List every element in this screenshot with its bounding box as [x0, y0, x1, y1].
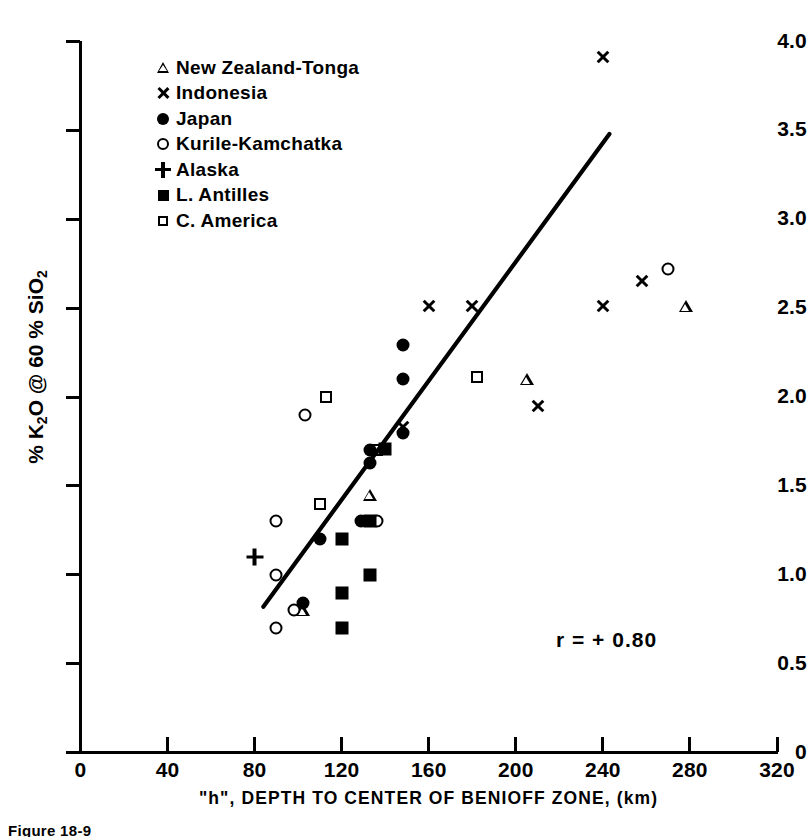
legend: New Zealand-TongaIndonesiaJapanKurile-Ka… — [150, 55, 359, 234]
data-point — [396, 339, 409, 352]
data-point — [313, 533, 326, 546]
open-square-marker-icon — [371, 444, 383, 456]
data-point — [371, 444, 383, 456]
filled-circle-marker-icon — [396, 373, 409, 386]
filled-square-marker-icon — [335, 622, 348, 635]
figure-caption: Figure 18-9 — [8, 822, 91, 837]
x-tick — [253, 737, 256, 752]
filled-circle-marker-icon — [157, 113, 169, 125]
y-tick — [66, 484, 80, 487]
legend-label: Alaska — [176, 159, 239, 181]
legend-label: Indonesia — [176, 82, 267, 104]
y-tick-label: 3.5 — [753, 117, 807, 141]
open-circle-marker-icon — [270, 622, 283, 635]
x-tick — [340, 737, 343, 752]
data-point — [530, 398, 545, 413]
open-triangle-marker-icon — [157, 62, 169, 73]
x-tick-label: 40 — [138, 758, 198, 782]
legend-item-alaska[interactable]: Alaska — [150, 157, 359, 183]
cross-marker-icon — [465, 299, 480, 314]
plus-marker-icon — [155, 162, 171, 178]
data-point — [595, 50, 610, 65]
cross-marker-icon — [156, 86, 170, 100]
filled-circle-marker-icon — [396, 339, 409, 352]
open-square-marker-icon — [158, 216, 168, 226]
data-point — [335, 533, 348, 546]
y-tick-label: 2.5 — [753, 295, 807, 319]
y-tick — [66, 751, 80, 754]
legend-item-c-america[interactable]: C. America — [150, 208, 359, 234]
filled-square-marker-icon — [335, 533, 348, 546]
data-point — [396, 426, 409, 439]
open-square-marker-icon — [320, 391, 332, 403]
x-tick-label: 240 — [573, 758, 633, 782]
open-triangle-marker-icon — [520, 373, 534, 385]
open-square-marker-icon — [314, 498, 326, 510]
open-circle-marker-icon — [298, 408, 311, 421]
y-axis-title: % K2O @ 60 % SiO2 — [24, 237, 48, 497]
data-point — [270, 568, 283, 581]
open-square-marker-icon — [471, 371, 483, 383]
x-tick-label: 280 — [660, 758, 720, 782]
y-tick — [66, 573, 80, 576]
y-tick — [66, 218, 80, 221]
open-triangle-marker-icon — [363, 489, 377, 501]
legend-marker — [150, 86, 176, 100]
x-axis-title: "h", DEPTH TO CENTER OF BENIOFF ZONE, (k… — [79, 788, 778, 809]
open-circle-marker-icon — [157, 138, 169, 150]
filled-square-marker-icon — [363, 568, 376, 581]
data-point — [363, 489, 377, 501]
open-circle-marker-icon — [662, 263, 675, 276]
x-tick — [166, 737, 169, 752]
x-tick — [427, 737, 430, 752]
cross-marker-icon — [595, 299, 610, 314]
y-tick-label: 4.0 — [753, 29, 807, 53]
data-point — [471, 371, 483, 383]
y-tick — [66, 129, 80, 132]
legend-marker — [150, 190, 176, 201]
data-point — [662, 263, 675, 276]
data-point — [335, 622, 348, 635]
data-point — [465, 299, 480, 314]
y-tick-label: 1.5 — [753, 473, 807, 497]
legend-item-japan[interactable]: Japan — [150, 106, 359, 132]
filled-circle-marker-icon — [313, 533, 326, 546]
regression-line — [0, 0, 807, 837]
legend-item-new-zealand-tonga[interactable]: New Zealand-Tonga — [150, 55, 359, 81]
x-tick-label: 80 — [225, 758, 285, 782]
cross-marker-icon — [635, 274, 650, 289]
legend-item-l-antilles[interactable]: L. Antilles — [150, 183, 359, 209]
legend-label: C. America — [176, 210, 278, 232]
y-tick — [66, 307, 80, 310]
y-tick-label: 3.0 — [753, 206, 807, 230]
legend-item-indonesia[interactable]: Indonesia — [150, 81, 359, 107]
cross-marker-icon — [530, 398, 545, 413]
open-circle-marker-icon — [270, 515, 283, 528]
data-point — [287, 604, 300, 617]
filled-circle-marker-icon — [396, 426, 409, 439]
data-point — [270, 515, 283, 528]
x-tick-label: 120 — [312, 758, 372, 782]
cross-marker-icon — [421, 299, 436, 314]
data-point — [396, 373, 409, 386]
x-tick — [601, 737, 604, 752]
y-tick-label: 1.0 — [753, 562, 807, 586]
filled-circle-marker-icon — [363, 456, 376, 469]
correlation-annotation: r = + 0.80 — [556, 628, 657, 652]
data-point — [298, 408, 311, 421]
x-tick-label: 320 — [747, 758, 807, 782]
cross-marker-icon — [595, 50, 610, 65]
legend-marker — [150, 113, 176, 125]
y-tick — [66, 40, 80, 43]
plus-marker-icon — [246, 548, 263, 565]
data-point — [363, 456, 376, 469]
legend-label: Kurile-Kamchatka — [176, 133, 342, 155]
legend-marker — [150, 162, 176, 178]
data-point — [363, 568, 376, 581]
data-point — [320, 391, 332, 403]
open-triangle-marker-icon — [679, 300, 693, 312]
x-tick — [514, 737, 517, 752]
y-tick — [66, 662, 80, 665]
data-point — [314, 498, 326, 510]
legend-item-kurile-kamchatka[interactable]: Kurile-Kamchatka — [150, 132, 359, 158]
